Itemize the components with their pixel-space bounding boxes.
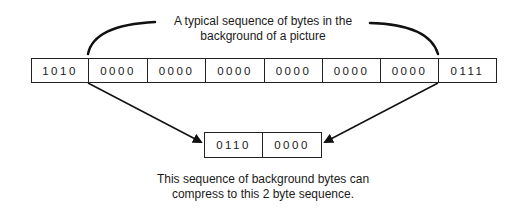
top-caption-line-2: background of a picture — [163, 29, 363, 44]
top-caption: A typical sequence of bytes in the backg… — [163, 14, 363, 44]
byte-cell: 0000 — [381, 59, 439, 82]
original-byte-sequence: 1010 0000 0000 0000 0000 0000 0000 0111 — [31, 58, 497, 83]
compressed-byte-sequence: 0110 0000 — [204, 132, 322, 158]
bottom-caption: This sequence of background bytes can co… — [138, 172, 388, 202]
byte-cell: 0111 — [439, 59, 496, 82]
left-bracket-curve — [88, 22, 155, 54]
byte-cell: 1010 — [32, 59, 89, 82]
byte-cell: 0000 — [323, 59, 381, 82]
left-arrow — [88, 83, 201, 142]
bottom-caption-line-1: This sequence of background bytes can — [138, 172, 388, 187]
byte-cell: 0000 — [148, 59, 206, 82]
right-bracket-curve — [370, 23, 438, 54]
right-arrow — [325, 83, 438, 142]
bottom-caption-line-2: compress to this 2 byte sequence. — [138, 187, 388, 202]
byte-cell: 0000 — [265, 59, 323, 82]
top-caption-line-1: A typical sequence of bytes in the — [163, 14, 363, 29]
byte-cell: 0110 — [205, 133, 263, 157]
byte-cell: 0000 — [89, 59, 148, 82]
byte-cell: 0000 — [263, 133, 321, 157]
byte-cell: 0000 — [206, 59, 265, 82]
